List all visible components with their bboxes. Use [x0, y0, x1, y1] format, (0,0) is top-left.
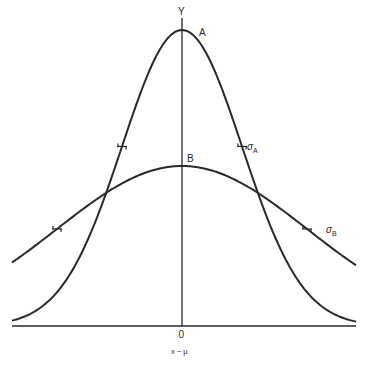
curve-a-label: A — [199, 27, 206, 38]
origin-label: 0 — [179, 329, 185, 340]
sigma-a-label: σA — [247, 141, 258, 154]
y-axis-label: Y — [178, 6, 185, 17]
curve-a — [12, 30, 356, 322]
normal-curves-diagram: Y A B σA σB 0 x − μ — [0, 0, 365, 365]
sigma-b-label: σB — [326, 224, 337, 237]
curve-b-label: B — [187, 153, 194, 164]
curve-b — [12, 166, 356, 265]
x-axis-label: x − μ — [171, 347, 188, 356]
